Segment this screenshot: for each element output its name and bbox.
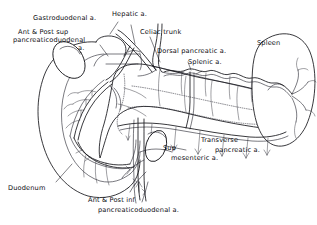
label-hepatic: Hepatic a. [112,10,147,18]
label-sup-mesenteric-line2: mesenteric a. [171,154,218,162]
label-celiac-trunk: Celiac trunk [140,28,181,36]
leader-hepatic [110,22,118,34]
label-ant-post-sup-line2: pancreaticoduodenal [13,36,85,44]
superior-mesenteric-artery [122,118,172,203]
label-duodenum: Duodenum [8,184,46,192]
label-ant-post-inf-line2: pancreaticoduodenal a. [98,206,179,214]
label-splenic: Splenic a. [188,58,222,66]
label-transverse-line1: Transverse [200,136,238,144]
label-spleen: Spleen [257,39,280,47]
label-ant-post-sup-line1: Ant & Post sup [18,28,68,36]
duodenum-outline [38,36,140,198]
label-ant-post-sup-line3: a. [78,44,84,52]
label-sup-mesenteric-line1: Sup [163,144,176,152]
anatomical-figure: Gastroduodenal a. Ant & Post sup pancrea… [0,0,317,225]
spleen-outline [252,34,315,146]
leader-splenic [196,71,202,74]
label-transverse-line2: pancreatic a. [215,146,260,154]
label-dorsal-pancreatic: Dorsal pancreatic a. [157,47,226,55]
label-ant-post-inf-line1: Ant & Post inf [88,196,135,204]
label-gastroduodenal: Gastroduodenal a. [33,14,96,22]
